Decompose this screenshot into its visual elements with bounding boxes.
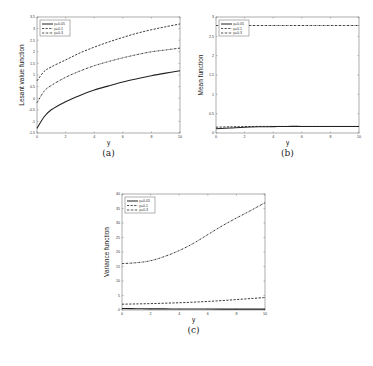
y-tick-label: 2: [212, 54, 214, 58]
x-axis-label: y: [192, 316, 196, 324]
figure: 0246810-1.5-1-0.500.511.522.533.5yLesant…: [0, 0, 373, 366]
x-tick-label: 0: [215, 135, 217, 139]
legend-label: γ=0.1: [54, 27, 63, 31]
y-tick-label: -0.5: [29, 108, 35, 112]
x-tick-label: 0: [36, 135, 38, 139]
x-tick-label: 4: [272, 135, 274, 139]
y-tick-label: 0: [212, 131, 214, 135]
y-tick-label: -1.5: [29, 131, 35, 135]
x-tick-label: 6: [207, 312, 209, 316]
y-tick-label: 5: [118, 294, 120, 298]
y-axis-label: Mean function: [197, 54, 204, 95]
y-tick-label: 1.5: [209, 73, 214, 77]
y-tick-label: 2.5: [30, 39, 35, 43]
y-tick-label: 2: [33, 50, 35, 54]
y-tick-label: 40: [116, 192, 120, 196]
subfigure-label: (b): [281, 148, 294, 158]
chart-b: 024681000.511.522.53yMean functionγ=0.05…: [197, 15, 361, 158]
x-tick-label: 2: [244, 135, 246, 139]
x-tick-label: 8: [150, 135, 152, 139]
x-tick-label: 6: [122, 135, 124, 139]
y-axis-label: Variance function: [103, 227, 110, 277]
legend-label: γ=0.05: [139, 199, 150, 203]
chart-c: 02468100510152025303540yVariance functio…: [103, 192, 267, 335]
subfigure-label: (c): [187, 325, 199, 335]
legend-label: γ=0.1: [139, 204, 148, 208]
y-tick-label: 35: [116, 207, 120, 211]
x-tick-label: 10: [357, 135, 361, 139]
x-axis-label: y: [107, 139, 111, 147]
legend-label: γ=0.3: [139, 208, 148, 212]
y-axis-label: Lesant value function: [18, 44, 25, 106]
x-tick-label: 2: [65, 135, 67, 139]
y-tick-label: 20: [116, 250, 120, 254]
y-tick-label: 15: [116, 265, 120, 269]
chart-a: 0246810-1.5-1-0.500.511.522.533.5yLesant…: [18, 15, 182, 158]
x-tick-label: 6: [301, 135, 303, 139]
y-tick-label: 3: [212, 15, 214, 19]
y-tick-label: 2.5: [209, 35, 214, 39]
legend-label: γ=0.1: [233, 27, 242, 31]
subfigure-label: (a): [102, 148, 114, 158]
x-tick-label: 8: [235, 312, 237, 316]
y-tick-label: 25: [116, 236, 120, 240]
y-tick-label: 0.5: [209, 112, 214, 116]
x-tick-label: 10: [263, 312, 267, 316]
y-tick-label: 1: [33, 73, 35, 77]
x-tick-label: 4: [93, 135, 95, 139]
series-line-0: [122, 309, 265, 310]
y-tick-label: 3.5: [30, 15, 35, 19]
x-tick-label: 8: [329, 135, 331, 139]
legend-label: γ=0.3: [233, 31, 242, 35]
x-tick-label: 0: [121, 312, 123, 316]
y-tick-label: -1: [32, 120, 35, 124]
y-tick-label: 0: [118, 308, 120, 312]
y-tick-label: 3: [33, 27, 35, 31]
y-tick-label: 30: [116, 221, 120, 225]
x-tick-label: 2: [150, 312, 152, 316]
legend-label: γ=0.05: [233, 22, 244, 26]
legend-label: γ=0.3: [54, 31, 63, 35]
legend-label: γ=0.05: [54, 22, 65, 26]
y-tick-label: 1.5: [30, 62, 35, 66]
y-tick-label: 0.5: [30, 85, 35, 89]
y-tick-label: 1: [212, 93, 214, 97]
x-tick-label: 10: [178, 135, 182, 139]
y-tick-label: 10: [116, 279, 120, 283]
x-axis-label: y: [286, 139, 290, 147]
x-tick-label: 4: [178, 312, 180, 316]
y-tick-label: 0: [33, 97, 35, 101]
